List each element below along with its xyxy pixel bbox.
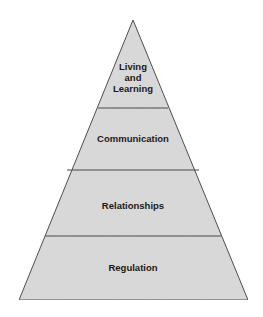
- level-communication: Communication: [97, 133, 169, 144]
- level-label-line: and: [125, 72, 142, 83]
- pyramid-diagram: Living and Learning Communication Relati…: [0, 0, 263, 317]
- level-label: Relationships: [102, 200, 164, 211]
- level-regulation: Regulation: [108, 262, 157, 273]
- level-label-line: Living: [119, 61, 147, 72]
- level-relationships: Relationships: [102, 200, 164, 211]
- level-label: Communication: [97, 133, 169, 144]
- level-label-line: Learning: [113, 83, 153, 94]
- level-label: Regulation: [108, 262, 157, 273]
